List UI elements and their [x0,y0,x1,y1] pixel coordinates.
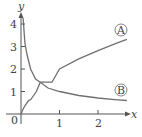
x-tick-2: 2 [95,117,102,130]
y-tick-4: 4 [10,18,17,31]
y-tick-1: 1 [10,86,17,99]
chart: 0 1 2 1 2 3 4 x y A B [0,0,142,137]
curve-a [21,39,127,114]
y-tick-2: 2 [10,63,17,76]
curve-b-label: B [117,84,125,97]
origin-label: 0 [11,114,18,127]
y-axis-label: y [17,0,25,13]
curve-a-label: A [116,24,126,37]
x-axis-label: x [131,108,138,121]
x-tick-1: 1 [56,117,63,130]
curve-b [23,18,127,100]
y-tick-3: 3 [10,41,17,54]
